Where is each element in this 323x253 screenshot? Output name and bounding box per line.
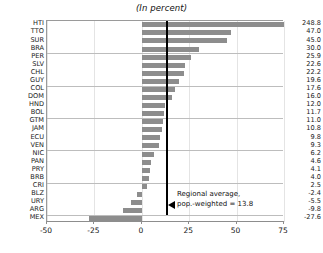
bar-row (47, 21, 283, 29)
value-label: 9.8 (285, 133, 321, 141)
value-label: 11.7 (285, 108, 321, 116)
value-label: 11.0 (285, 116, 321, 124)
category-label: CRI (2, 181, 44, 189)
bar (142, 30, 231, 35)
bar (142, 22, 284, 27)
regional-average-line2: pop.-weighted = 13.8 (177, 200, 253, 210)
x-tick-label: -50 (31, 226, 61, 235)
value-label: -9.8 (285, 205, 321, 213)
x-tick-mark (141, 221, 142, 224)
x-tick-mark (46, 221, 47, 224)
bar-row (47, 134, 283, 142)
bar-row (47, 45, 283, 53)
x-tick-label: 75 (268, 226, 298, 235)
category-labels: HTITTOSURBRAPERSLVCHLGUYCOLDOMHNDBOLGTMJ… (0, 20, 44, 222)
regional-average-line (166, 21, 168, 215)
value-label: 47.0 (285, 27, 321, 35)
value-label: 19.6 (285, 76, 321, 84)
bar (142, 160, 151, 165)
bar-row (47, 150, 283, 158)
value-label: 10.8 (285, 124, 321, 132)
category-label: BOL (2, 108, 44, 116)
value-label: -5.5 (285, 197, 321, 205)
bar (142, 63, 185, 68)
category-label: COL (2, 84, 44, 92)
value-label: 12.0 (285, 100, 321, 108)
category-label: PER (2, 52, 44, 60)
bar-row (47, 175, 283, 183)
category-label: HND (2, 100, 44, 108)
x-axis-line (46, 221, 283, 222)
bar-row (47, 53, 283, 61)
bar-row (47, 142, 283, 150)
category-label: SUR (2, 36, 44, 44)
chart-title: (In percent) (0, 3, 323, 13)
category-label: SLV (2, 60, 44, 68)
value-label: 22.6 (285, 60, 321, 68)
value-label: 248.8 (285, 19, 321, 27)
x-tick-label: -25 (78, 226, 108, 235)
category-label: GTM (2, 116, 44, 124)
bar (142, 79, 179, 84)
value-label: 2.5 (285, 181, 321, 189)
category-label: CHL (2, 68, 44, 76)
category-label: VEN (2, 141, 44, 149)
category-label: DOM (2, 92, 44, 100)
bar-row (47, 78, 283, 86)
x-tick-mark (283, 221, 284, 224)
x-tick-mark (236, 221, 237, 224)
bar (142, 47, 199, 52)
value-label: 4.1 (285, 165, 321, 173)
value-label: -2.4 (285, 189, 321, 197)
bar-row (47, 86, 283, 94)
value-label: 30.0 (285, 44, 321, 52)
category-label: MEX (2, 213, 44, 221)
value-label: 45.0 (285, 36, 321, 44)
bar (142, 168, 150, 173)
bar (123, 208, 142, 213)
bar (142, 103, 165, 108)
regional-average-arrow-icon (168, 201, 175, 209)
regional-average-label: Regional average, pop.-weighted = 13.8 (177, 190, 253, 209)
value-label: 9.3 (285, 141, 321, 149)
category-label: PRY (2, 165, 44, 173)
value-label: 4.0 (285, 173, 321, 181)
bar (142, 152, 154, 157)
bar (142, 143, 160, 148)
value-labels: 248.847.045.030.025.922.622.219.617.616.… (285, 20, 321, 222)
bar (131, 200, 141, 205)
bar-row (47, 69, 283, 77)
x-tick-label: 0 (126, 226, 156, 235)
category-label: HTI (2, 19, 44, 27)
value-label: 16.0 (285, 92, 321, 100)
bar (142, 135, 161, 140)
category-label: BRB (2, 173, 44, 181)
bar (137, 192, 142, 197)
bar (142, 184, 147, 189)
x-tick-mark (93, 221, 94, 224)
category-label: BLZ (2, 189, 44, 197)
bar-row (47, 37, 283, 45)
bar (142, 127, 162, 132)
bar-row (47, 158, 283, 166)
x-tick-label: 25 (173, 226, 203, 235)
bar-row (47, 166, 283, 174)
value-label: 22.2 (285, 68, 321, 76)
category-label: PAN (2, 157, 44, 165)
bar (142, 38, 227, 43)
category-label: BRA (2, 44, 44, 52)
bar-row (47, 94, 283, 102)
bar (142, 119, 163, 124)
value-label: 6.2 (285, 149, 321, 157)
bar-row (47, 29, 283, 37)
value-label: 17.6 (285, 84, 321, 92)
bar-row (47, 126, 283, 134)
category-label: URY (2, 197, 44, 205)
category-label: ARG (2, 205, 44, 213)
x-tick-label: 50 (221, 226, 251, 235)
bar (142, 111, 164, 116)
value-label: -27.6 (285, 213, 321, 221)
regional-average-line1: Regional average, (177, 190, 253, 200)
bar (142, 71, 184, 76)
category-label: NIC (2, 149, 44, 157)
